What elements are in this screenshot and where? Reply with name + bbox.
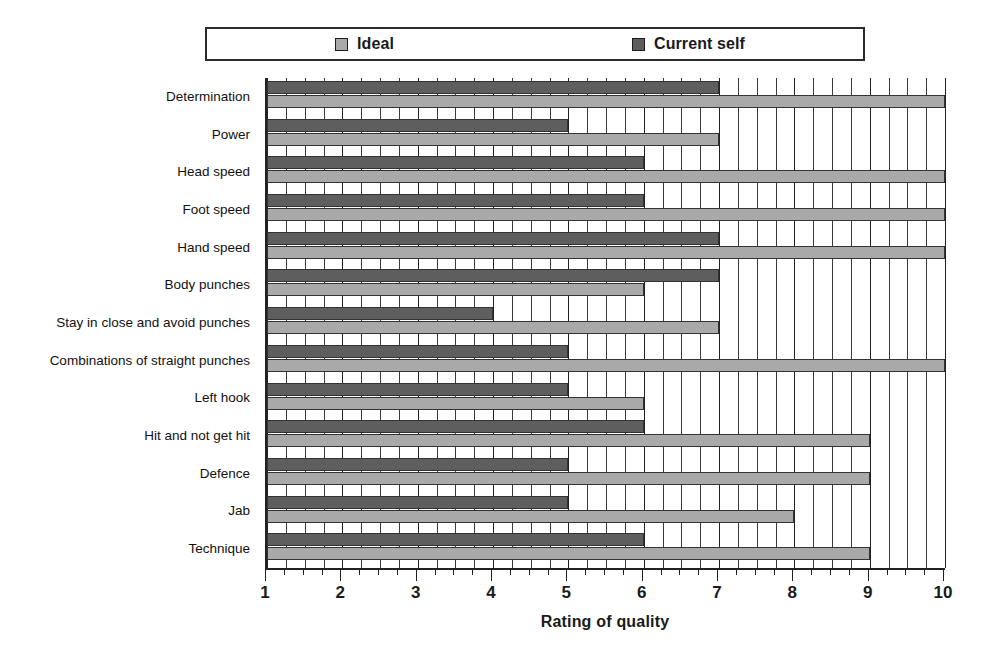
bar-current-self	[267, 383, 568, 396]
bar-current-self	[267, 119, 568, 132]
category-label: Determination	[166, 90, 250, 104]
bar-current-self	[267, 496, 568, 509]
category-label: Combinations of straight punches	[50, 354, 250, 368]
x-tick-minor	[811, 570, 812, 575]
x-tick-minor	[529, 570, 530, 575]
x-tick-minor	[887, 570, 888, 575]
category-label: Defence	[200, 467, 250, 481]
x-tick-minor	[774, 570, 775, 575]
x-tick-minor	[830, 570, 831, 575]
legend-entry-current-self: Current self	[632, 35, 745, 53]
x-tick-label: 2	[336, 583, 345, 603]
category-label: Left hook	[194, 391, 250, 405]
x-tick-major	[868, 570, 869, 581]
category-label: Foot speed	[182, 203, 250, 217]
x-tick-label: 7	[712, 583, 721, 603]
bar-current-self	[267, 307, 493, 320]
category-axis: DeterminationPowerHead speedFoot speedHa…	[0, 78, 258, 568]
legend-entry-ideal: Ideal	[335, 35, 394, 53]
x-tick-label: 10	[934, 583, 953, 603]
x-tick-minor	[585, 570, 586, 575]
legend-swatch-ideal	[335, 38, 348, 51]
bars-layer	[267, 78, 945, 568]
x-tick-minor	[905, 570, 906, 575]
legend-label-ideal: Ideal	[357, 35, 394, 53]
x-tick-minor	[435, 570, 436, 575]
bar-ideal	[267, 472, 870, 485]
x-tick-minor	[755, 570, 756, 575]
x-tick-label: 1	[260, 583, 269, 603]
x-tick-label: 8	[788, 583, 797, 603]
x-tick-minor	[510, 570, 511, 575]
x-tick-major	[717, 570, 718, 581]
category-label: Hand speed	[177, 241, 250, 255]
category-label: Body punches	[164, 278, 250, 292]
x-tick-major	[943, 570, 944, 581]
chart-plot-wrapper: DeterminationPowerHead speedFoot speedHa…	[0, 78, 985, 578]
bar-current-self	[267, 458, 568, 471]
bar-ideal	[267, 95, 945, 108]
x-tick-minor	[604, 570, 605, 575]
x-tick-major	[491, 570, 492, 581]
x-tick-minor	[303, 570, 304, 575]
bar-ideal	[267, 133, 719, 146]
x-tick-minor	[924, 570, 925, 575]
bar-ideal	[267, 359, 945, 372]
bar-current-self	[267, 232, 719, 245]
x-tick-minor	[698, 570, 699, 575]
bar-ideal	[267, 170, 945, 183]
x-tick-major	[265, 570, 266, 581]
bar-current-self	[267, 269, 719, 282]
bar-ideal	[267, 434, 870, 447]
bar-ideal	[267, 397, 644, 410]
x-tick-label: 5	[562, 583, 571, 603]
legend-label-current-self: Current self	[654, 35, 745, 53]
x-tick-minor	[736, 570, 737, 575]
x-axis: 12345678910	[265, 568, 945, 584]
category-label: Jab	[228, 504, 250, 518]
category-label: Head speed	[177, 165, 250, 179]
x-tick-major	[642, 570, 643, 581]
x-axis-title: Rating of quality	[265, 613, 945, 631]
bar-ideal	[267, 510, 794, 523]
x-tick-minor	[359, 570, 360, 575]
chart-legend: Ideal Current self	[205, 27, 865, 61]
bar-ideal	[267, 283, 644, 296]
x-tick-minor	[548, 570, 549, 575]
x-tick-minor	[623, 570, 624, 575]
x-tick-minor	[472, 570, 473, 575]
x-tick-minor	[322, 570, 323, 575]
bar-current-self	[267, 81, 719, 94]
category-label: Power	[212, 128, 250, 142]
x-tick-label: 6	[637, 583, 646, 603]
x-tick-minor	[397, 570, 398, 575]
category-label: Hit and not get hit	[144, 429, 250, 443]
bar-ideal	[267, 246, 945, 259]
bar-current-self	[267, 533, 644, 546]
category-label: Technique	[188, 542, 250, 556]
bar-current-self	[267, 194, 644, 207]
x-tick-minor	[679, 570, 680, 575]
x-tick-label: 9	[863, 583, 872, 603]
category-label: Stay in close and avoid punches	[56, 316, 250, 330]
x-tick-minor	[849, 570, 850, 575]
x-tick-major	[792, 570, 793, 581]
legend-swatch-current-self	[632, 38, 645, 51]
x-tick-minor	[453, 570, 454, 575]
x-tick-minor	[378, 570, 379, 575]
bar-ideal	[267, 547, 870, 560]
x-tick-minor	[661, 570, 662, 575]
gridline-major	[945, 78, 946, 568]
x-tick-major	[566, 570, 567, 581]
x-tick-label: 4	[486, 583, 495, 603]
plot-area	[265, 78, 945, 568]
bar-current-self	[267, 345, 568, 358]
bar-current-self	[267, 156, 644, 169]
x-tick-minor	[284, 570, 285, 575]
bar-current-self	[267, 420, 644, 433]
bar-ideal	[267, 208, 945, 221]
bar-ideal	[267, 321, 719, 334]
x-tick-major	[416, 570, 417, 581]
x-tick-major	[340, 570, 341, 581]
x-tick-label: 3	[411, 583, 420, 603]
